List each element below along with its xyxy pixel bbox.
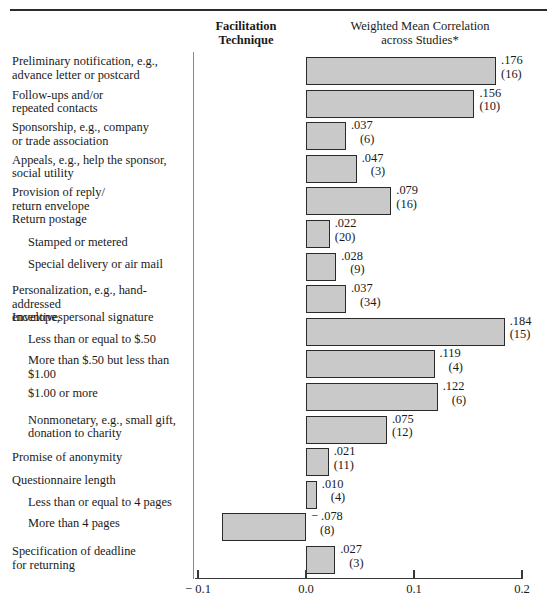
bar [306, 448, 329, 476]
bar-value-annotation: .176(16) [501, 54, 523, 81]
bar-value-annotation: .028(9) [341, 250, 364, 277]
bar-value-annotation: − .078(8) [311, 510, 343, 537]
row-label-line2: Less than or equal to $.50 [12, 324, 190, 347]
row-label-line1: Sponsorship, e.g., company [12, 121, 190, 135]
bar [306, 122, 346, 150]
bar-value-annotation: .022(20) [335, 217, 357, 244]
bar-value-number: .184 [510, 315, 532, 329]
x-axis-tick-label: 0.0 [298, 582, 314, 597]
bar [306, 285, 346, 313]
bar-study-count: (6) [443, 394, 466, 408]
bar-value-annotation: .122(6) [443, 380, 466, 407]
bar-value-number: .075 [392, 413, 414, 427]
row-label-line1: Incentives [12, 311, 190, 325]
bar-study-count: (16) [396, 198, 418, 212]
row-label-line1: Personalization, e.g., hand-addressed [12, 284, 190, 311]
row-label: Sponsorship, e.g., companyor trade assoc… [12, 121, 190, 148]
bar-value-annotation: .156(10) [479, 87, 501, 114]
row-label-line1: Preliminary notification, e.g., [12, 55, 190, 69]
bar-value-annotation: .184(15) [510, 315, 532, 342]
bar [306, 546, 335, 574]
row-label-line1: More than 4 pages [28, 517, 192, 531]
x-axis-tick [521, 570, 522, 579]
row-label: $1.00 or more [28, 387, 192, 401]
x-axis-tick-label: 0.2 [514, 582, 530, 597]
row-label: Questionnaire lengthLess than or equal t… [12, 474, 190, 510]
bar [306, 416, 387, 444]
bar [306, 481, 317, 509]
bar-value-number: .022 [335, 217, 357, 231]
bar-study-count: (3) [362, 165, 385, 179]
row-label-line2: advance letter or postcard [12, 69, 190, 83]
bar [306, 187, 391, 215]
bar-value-number: .037 [351, 282, 381, 296]
bar-study-count: (16) [501, 68, 523, 82]
bar-study-count: (6) [351, 133, 374, 147]
row-label-line1: Special delivery or air mail [28, 258, 192, 272]
row-label-line2: or trade association [12, 135, 190, 149]
row-label: Special delivery or air mail [28, 258, 192, 272]
bar-value-annotation: .079(16) [396, 184, 418, 211]
row-label-line1: Follow-ups and/or [12, 89, 190, 103]
row-label-line2: for returning [12, 559, 190, 573]
row-label: More than $.50 but less than $1.00 [28, 354, 192, 381]
bar [306, 350, 435, 378]
bar-value-number: .122 [443, 380, 466, 394]
bar-value-annotation: .037(34) [351, 282, 381, 309]
x-axis-tick [305, 570, 306, 579]
bar-value-annotation: .047(3) [362, 152, 385, 179]
row-label-line2: repeated contacts [12, 102, 190, 116]
bar-study-count: (20) [335, 231, 357, 245]
row-label: Promise of anonymity [12, 451, 190, 465]
row-label: Preliminary notification, e.g.,advance l… [12, 55, 190, 82]
row-label: Appeals, e.g., help the sponsor,social u… [12, 154, 190, 181]
row-label-line1: Questionnaire length [12, 474, 190, 488]
bar-value-annotation: .021(11) [334, 445, 356, 472]
bar-value-number: .027 [340, 543, 363, 557]
bar [306, 155, 357, 183]
row-label-line1: Provision of reply/ [12, 186, 190, 200]
bar-value-number: .119 [440, 347, 463, 361]
bar [306, 90, 474, 118]
x-axis-tick [197, 570, 198, 579]
bar-study-count: (15) [510, 328, 532, 342]
bar-value-number: .079 [396, 184, 418, 198]
row-label-line1: Specification of deadline [12, 545, 190, 559]
row-label: Follow-ups and/orrepeated contacts [12, 89, 190, 116]
bar-value-number: .176 [501, 54, 523, 68]
bar-chart-plot-area: .176(16)Preliminary notification, e.g.,a… [0, 0, 556, 603]
x-axis-line [195, 578, 523, 579]
row-label-line2: Less than or equal to 4 pages [12, 487, 190, 510]
bar [306, 318, 505, 346]
bar-value-annotation: .119(4) [440, 347, 463, 374]
bar-study-count: (3) [340, 557, 363, 571]
bar-study-count: (9) [341, 263, 364, 277]
bar-value-number: − .078 [311, 510, 343, 524]
row-label-line1: Return postage [12, 213, 190, 227]
bar [306, 57, 496, 85]
bar [306, 383, 438, 411]
row-label: More than 4 pages [28, 517, 192, 531]
bar-study-count: (11) [334, 459, 356, 473]
row-label-line2: Stamped or metered [12, 227, 190, 250]
row-label-line1: Nonmonetary, e.g., small gift, [28, 414, 192, 428]
row-label: Specification of deadlinefor returning [12, 545, 190, 572]
bar [306, 253, 336, 281]
row-label-line2: social utility [12, 167, 190, 181]
bar-study-count: (12) [392, 426, 414, 440]
x-axis-tick-label: 0.1 [406, 582, 422, 597]
bar-value-annotation: .075(12) [392, 413, 414, 440]
x-axis-tick-label: − 0.1 [185, 582, 211, 597]
bar-value-number: .021 [334, 445, 356, 459]
bar-study-count: (4) [440, 361, 463, 375]
bar-value-annotation: .037(6) [351, 119, 374, 146]
bar [306, 220, 330, 248]
bar-value-annotation: .010(4) [322, 478, 345, 505]
bar-value-number: .037 [351, 119, 374, 133]
bar-value-annotation: .027(3) [340, 543, 363, 570]
bar-value-number: .156 [479, 87, 501, 101]
row-label-line1: More than $.50 but less than $1.00 [28, 354, 192, 381]
row-label: IncentivesLess than or equal to $.50 [12, 311, 190, 347]
bar-study-count: (10) [479, 100, 501, 114]
row-label: Nonmonetary, e.g., small gift,donation t… [28, 414, 192, 441]
